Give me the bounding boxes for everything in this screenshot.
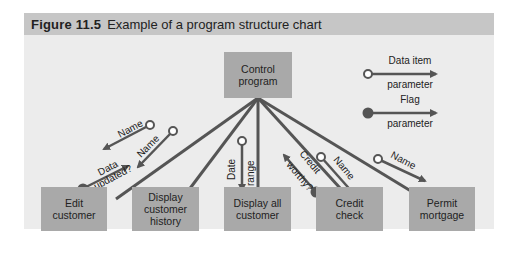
module-label: Permit [427, 197, 457, 209]
data-item-circle-icon [146, 121, 154, 129]
legend-data-item-title: Data item [380, 55, 440, 66]
param-label-range: range [245, 160, 256, 186]
module-label: Display [148, 191, 182, 203]
param-label-name: Name [331, 154, 357, 182]
control-label-line1: Control [241, 63, 275, 75]
control-label-line2: program [238, 75, 277, 87]
module-label: mortgage [420, 209, 464, 221]
module-label: customer [144, 203, 187, 215]
module-display-all-customer: Display all customer [224, 187, 291, 231]
module-permit-mortgage: Permit mortgage [409, 187, 475, 231]
module-label: customer [52, 209, 95, 221]
module-label: history [150, 215, 181, 227]
figure-panel: Figure 11.5 Example of a program structu… [24, 13, 494, 229]
module-credit-check: Credit check [316, 187, 383, 231]
data-item-circle-icon [238, 137, 246, 145]
module-label: Credit [335, 197, 363, 209]
module-label: Edit [65, 197, 83, 209]
data-item-circle-icon [374, 155, 382, 163]
param-label-name: Name [389, 149, 418, 171]
data-item-circle-icon [169, 127, 177, 135]
module-label: check [336, 209, 363, 221]
module-label: customer [236, 209, 279, 221]
data-item-circle-icon [317, 153, 325, 161]
module-label: Display all [234, 197, 282, 209]
legend-open-circle-icon [364, 70, 372, 78]
legend-data-item-sub: parameter [380, 79, 440, 90]
module-edit-customer: Edit customer [41, 187, 107, 231]
control-program-box: Control program [224, 52, 292, 98]
param-label-date: Date [226, 158, 237, 180]
legend-flag-title: Flag [380, 94, 440, 105]
legend-filled-circle-icon [364, 109, 373, 118]
legend-flag-sub: parameter [380, 118, 440, 129]
module-display-customer-history: Display customer history [132, 187, 199, 231]
